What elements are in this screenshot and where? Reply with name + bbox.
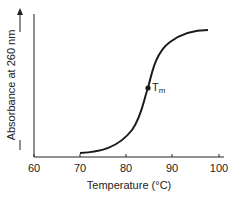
x-tick-label: 90 — [166, 162, 178, 174]
x-tick-label: 70 — [74, 162, 86, 174]
x-tick-label: 100 — [210, 162, 228, 174]
tm-annotation: Tm — [152, 81, 165, 95]
y-axis-label: Absorbance at 260 nm — [5, 30, 17, 141]
tm-marker — [145, 85, 150, 90]
arrow-up-icon — [17, 8, 23, 15]
x-axis-label: Temperature (°C) — [87, 179, 171, 191]
tm-main: T — [152, 81, 159, 93]
x-tick-label: 80 — [120, 162, 132, 174]
melting-curve — [80, 30, 208, 153]
tm-subscript: m — [159, 86, 166, 95]
x-tick-label: 60 — [28, 162, 40, 174]
